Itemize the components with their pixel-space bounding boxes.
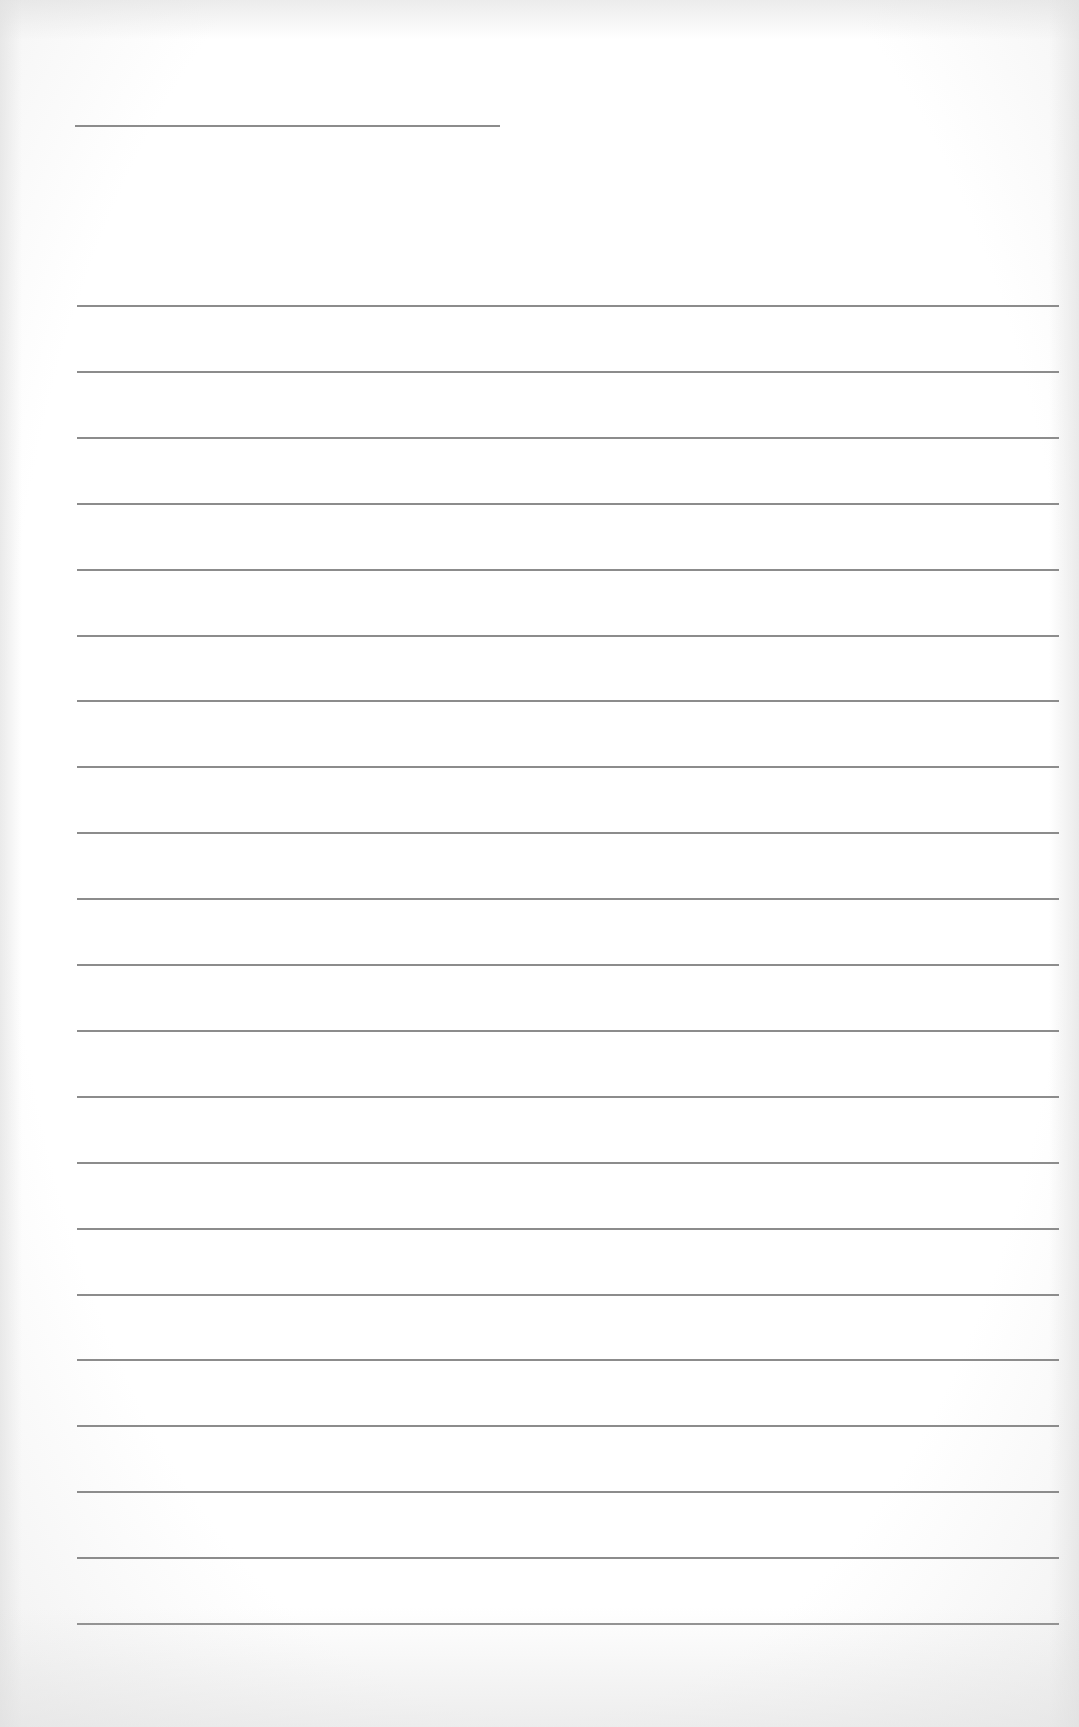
ruled-line — [77, 1030, 1059, 1032]
lined-paper-page — [0, 0, 1079, 1727]
ruled-line — [77, 437, 1059, 439]
ruled-line — [77, 371, 1059, 373]
ruled-line — [77, 964, 1059, 966]
paper-edge-shadow-right — [1049, 0, 1079, 1727]
paper-edge-shadow-left — [0, 0, 22, 1727]
ruled-line — [77, 1162, 1059, 1164]
ruled-line — [77, 635, 1059, 637]
ruled-line — [77, 700, 1059, 702]
ruled-line — [77, 569, 1059, 571]
ruled-line — [77, 1623, 1059, 1625]
ruled-line — [77, 1425, 1059, 1427]
ruled-line — [77, 1491, 1059, 1493]
ruled-line — [77, 1228, 1059, 1230]
ruled-line — [77, 1359, 1059, 1361]
ruled-line — [77, 503, 1059, 505]
ruled-line — [77, 1294, 1059, 1296]
header-name-line — [75, 125, 500, 127]
ruled-line — [77, 1557, 1059, 1559]
ruled-line — [77, 305, 1059, 307]
ruled-line — [77, 766, 1059, 768]
ruled-line — [77, 832, 1059, 834]
ruled-line — [77, 1096, 1059, 1098]
ruled-line — [77, 898, 1059, 900]
